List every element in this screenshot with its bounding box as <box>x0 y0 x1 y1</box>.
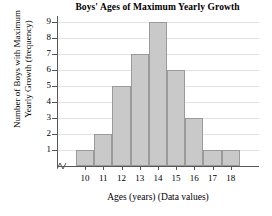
y-axis-tick-label: 9 <box>37 17 51 26</box>
y-axis-tick <box>52 118 57 119</box>
x-axis-tick <box>231 166 232 170</box>
y-axis-tick-label: 7 <box>37 49 51 58</box>
histogram-bar <box>149 22 167 166</box>
y-axis-title-line2: Yearly Growth (frequency) <box>23 10 34 128</box>
y-axis-tick-label: 8 <box>37 33 51 42</box>
histogram-bar <box>94 134 112 166</box>
x-axis-tick <box>140 166 141 170</box>
histogram-bar <box>112 86 130 166</box>
x-axis-tick-label: 15 <box>166 173 186 183</box>
y-axis-tick-label: 6 <box>37 65 51 74</box>
y-axis-tick-label: 5 <box>37 81 51 90</box>
y-axis-title: Number of Boys with Maximum Yearly Growt… <box>6 0 40 144</box>
y-axis-tick <box>52 134 57 135</box>
x-axis-tick <box>194 166 195 170</box>
x-axis-tick <box>158 166 159 170</box>
x-axis-tick-label: 16 <box>184 173 204 183</box>
x-axis-tick-label: 11 <box>93 173 113 183</box>
y-axis-tick <box>52 54 57 55</box>
x-axis-tick <box>85 166 86 170</box>
y-axis-tick-label: 1 <box>37 145 51 154</box>
histogram-bar <box>131 54 149 166</box>
axis-break-icon <box>57 160 69 170</box>
x-axis-tick-label: 18 <box>221 173 241 183</box>
histogram-bar <box>167 70 185 166</box>
y-axis-tick-label: 3 <box>37 113 51 122</box>
x-axis-tick <box>122 166 123 170</box>
x-axis-tick-label: 17 <box>203 173 223 183</box>
y-axis-tick <box>52 86 57 87</box>
x-axis-title: Ages (years) (Data values) <box>57 191 259 203</box>
y-axis-tick <box>52 70 57 71</box>
y-axis-tick <box>52 150 57 151</box>
histogram-figure: Boys' Ages of Maximum Yearly Growth Numb… <box>0 0 272 216</box>
histogram-bar <box>203 150 221 166</box>
x-axis-tick-label: 10 <box>75 173 95 183</box>
histogram-bar <box>222 150 240 166</box>
y-axis-tick <box>52 38 57 39</box>
y-axis-tick-label: 2 <box>37 129 51 138</box>
x-axis-tick-label: 14 <box>148 173 168 183</box>
y-axis-line <box>57 16 58 168</box>
y-axis-tick-label: 4 <box>37 97 51 106</box>
x-axis-tick-label: 13 <box>130 173 150 183</box>
x-axis-tick <box>213 166 214 170</box>
x-axis-tick <box>103 166 104 170</box>
histogram-bar <box>185 118 203 166</box>
y-axis-title-line1: Number of Boys with Maximum <box>12 10 23 128</box>
x-axis-tick <box>176 166 177 170</box>
y-axis-tick <box>52 22 57 23</box>
histogram-bar <box>76 150 94 166</box>
chart-title: Boys' Ages of Maximum Yearly Growth <box>55 1 260 13</box>
y-axis-tick <box>52 102 57 103</box>
x-axis-tick-label: 12 <box>112 173 132 183</box>
